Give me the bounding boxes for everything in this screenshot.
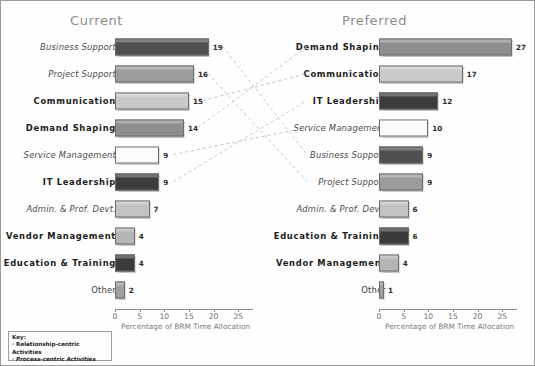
bar-label: Service Management [24,150,116,160]
bar-value: 12 [442,96,452,105]
panel-title-current: Current [0,13,230,28]
bar [379,227,409,244]
axis-tick-label: 25 [233,312,243,321]
bar-row: Other2 [1,276,268,303]
bar [379,65,463,82]
bar-value: 15 [193,96,203,105]
bar-row: IT Leadership12 [269,87,535,114]
axis-tick-label: 5 [137,312,142,321]
bar-value: 6 [413,231,418,240]
bar-value: 4 [139,258,144,267]
bar-row: Service Management10 [269,114,535,141]
bar-label: Project Support [318,177,386,187]
bar [115,92,189,109]
bar-value: 9 [427,150,432,159]
bar [379,119,428,136]
bar-row: Vendor Management4 [1,222,268,249]
axis-title: Percentage of BRM Time Allocation [121,322,250,331]
bar-rows-preferred: Demand Shaping27Communication17IT Leader… [269,33,535,303]
legend-key: Key: · Relationship-centric Activities ·… [8,331,112,361]
bar-label: Project Support [48,69,116,79]
axis-tick-label: 5 [401,312,406,321]
bar-label: Vendor Management [6,231,116,241]
bar [379,281,384,298]
axis-tick-label: 15 [184,312,194,321]
bar-row: Business Support19 [1,33,268,60]
bar-row: Communication15 [1,87,268,114]
legend-item-process: · Process-centric Activities [12,356,108,364]
axis-title: Percentage of BRM Time Allocation [385,322,514,331]
bar-label: Business Support [310,150,386,160]
bar-value: 16 [198,69,208,78]
bar-value: 9 [163,150,168,159]
bar [115,146,159,163]
bar-label: Business Support [40,42,116,52]
bar-row: Other1 [269,276,535,303]
bar-value: 19 [213,42,223,51]
bar-label: Education & Training [4,258,116,268]
bar-row: IT Leadership9 [1,168,268,195]
bar-value: 2 [129,285,134,294]
bar-label: Demand Shaping [296,42,386,52]
bar-rows-current: Business Support19Project Support16Commu… [1,33,268,303]
bar-row: Project Support16 [1,60,268,87]
bar [379,146,423,163]
bar-value: 27 [516,42,526,51]
bar-label: Vendor Management [276,258,386,268]
axis-tick-label: 20 [473,312,483,321]
bar-value: 9 [163,177,168,186]
panel-current: Current Business Support19Project Suppor… [1,1,268,366]
bar [115,38,209,55]
bar [115,254,135,271]
bar-label: Admin. & Prof. Devt. [26,204,116,214]
bar-value: 1 [388,285,393,294]
bar-label: Education & Training [274,231,386,241]
bar-label: Service Management [294,123,386,133]
bar [379,200,409,217]
bar-value: 7 [154,204,159,213]
axis-line [379,309,517,310]
axis-tick-label: 25 [497,312,507,321]
axis-tick-label: 15 [448,312,458,321]
bar-row: Education & Training4 [1,249,268,276]
bar [379,254,399,271]
bar-label: Demand Shaping [26,123,116,133]
bar-row: Communication17 [269,60,535,87]
axis-tick-label: 10 [423,312,433,321]
legend-title: Key: [12,334,108,341]
bar [115,65,194,82]
bar [115,119,184,136]
bar-label: Communication [304,69,386,79]
panel-preferred: Preferred Demand Shaping27Communication1… [269,1,535,366]
bar-label: Communication [34,96,116,106]
bar-row: Demand Shaping27 [269,33,535,60]
bar-row: Vendor Management4 [269,249,535,276]
bar [115,227,135,244]
bar-value: 10 [432,123,442,132]
bar-label: Admin. & Prof. Devt. [296,204,386,214]
bar-row: Demand Shaping14 [1,114,268,141]
axis-tick-label: 0 [377,312,382,321]
bar-value: 4 [403,258,408,267]
panel-title-preferred: Preferred [241,13,508,28]
bar-label: IT Leadership [313,96,386,106]
bar [379,173,423,190]
bar-row: Project Support9 [269,168,535,195]
bar-row: Service Management9 [1,141,268,168]
bar-row: Business Support9 [269,141,535,168]
bar-row: Admin. & Prof. Devt.6 [269,195,535,222]
bar-label: IT Leadership [43,177,116,187]
bar-row: Admin. & Prof. Devt.7 [1,195,268,222]
axis-line [115,309,253,310]
bar-value: 14 [188,123,198,132]
legend-item-relationship: · Relationship-centric Activities [12,341,108,356]
axis-tick-label: 0 [113,312,118,321]
chart-frame: Current Business Support19Project Suppor… [0,0,535,366]
bar-value: 17 [467,69,477,78]
bar [115,173,159,190]
bar-value: 6 [413,204,418,213]
bar-value: 9 [427,177,432,186]
bar-value: 4 [139,231,144,240]
bar-row: Education & Training6 [269,222,535,249]
axis-tick-label: 20 [209,312,219,321]
